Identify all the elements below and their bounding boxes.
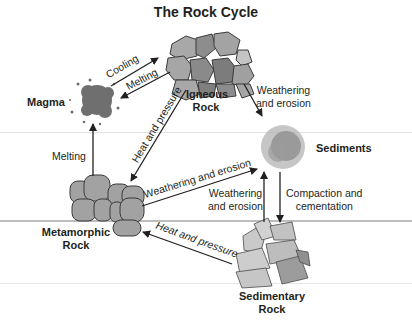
sedimentary-label-line2: Rock	[234, 303, 310, 316]
igneous-rock-label: Igneous Rock	[186, 88, 226, 114]
sedimentary-rock-icon	[236, 218, 310, 288]
sediments-icon	[261, 125, 305, 169]
magma-label: Magma	[27, 96, 65, 109]
melting-metamorphic-label: Melting	[52, 150, 86, 163]
igneous-label-line2: Rock	[186, 101, 226, 114]
igneous-weathering-label: Weathering and erosion	[256, 84, 311, 110]
igneous-label-line1: Igneous	[186, 88, 226, 101]
sedimentary-weathering-line2: and erosion	[208, 200, 263, 213]
sedimentary-rock-label: Sedimentary Rock	[234, 290, 310, 316]
metamorphic-rock-label: Metamorphic Rock	[36, 226, 116, 252]
arrow-igneous-to-metamorphic	[131, 90, 186, 181]
sedimentary-weathering-line1: Weathering	[208, 187, 263, 200]
compaction-line2: cementation	[286, 200, 362, 213]
sedimentary-weathering-label: Weathering and erosion	[208, 187, 263, 213]
igneous-weathering-line2: and erosion	[256, 97, 311, 110]
compaction-line1: Compaction and	[286, 187, 362, 200]
diagram-title: The Rock Cycle	[0, 4, 412, 20]
sedimentary-label-line1: Sedimentary	[234, 290, 310, 303]
compaction-cementation-label: Compaction and cementation	[286, 187, 362, 213]
diagram-graphics	[0, 0, 412, 332]
metamorphic-label-line1: Metamorphic	[36, 226, 116, 239]
sediments-label: Sediments	[316, 142, 372, 155]
rock-cycle-diagram: The Rock Cycle Igneous Rock Magma Sedime…	[0, 0, 412, 332]
metamorphic-label-line2: Rock	[36, 239, 116, 252]
igneous-weathering-line1: Weathering	[256, 84, 311, 97]
